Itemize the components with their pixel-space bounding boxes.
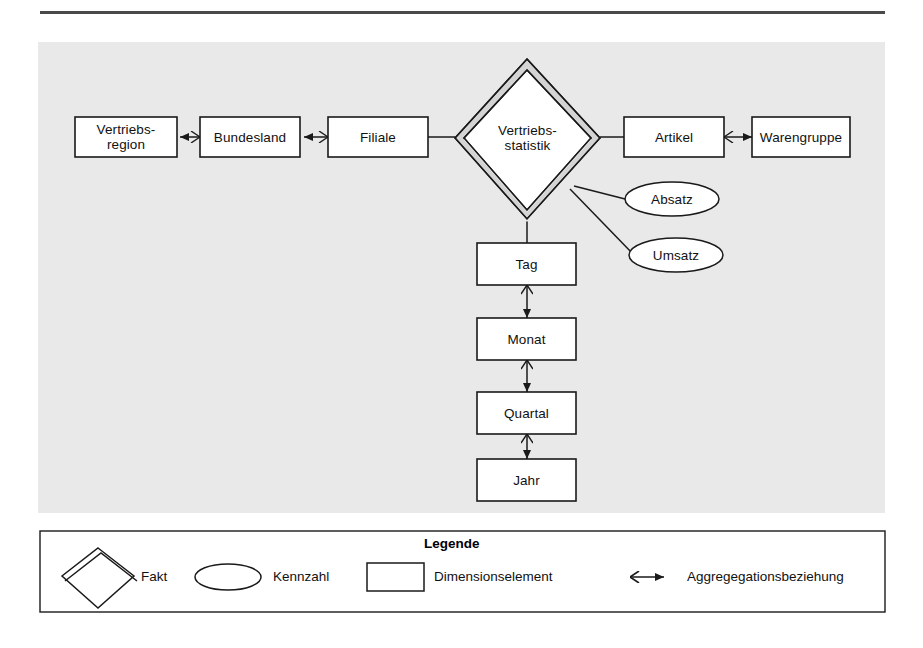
node-jahr[interactable] bbox=[477, 459, 576, 501]
node-quartal[interactable] bbox=[477, 392, 576, 434]
legend-label-aggregationsbeziehung: Aggregegationsbeziehung bbox=[687, 569, 844, 584]
legend-symbol-dimensionselement bbox=[367, 563, 424, 591]
legend-label-kennzahl: Kennzahl bbox=[273, 569, 329, 584]
node-tag[interactable] bbox=[477, 243, 576, 285]
node-filiale[interactable] bbox=[328, 117, 428, 157]
legend-symbol-kennzahl bbox=[195, 564, 261, 590]
node-umsatz[interactable] bbox=[629, 238, 723, 272]
node-bundesland[interactable] bbox=[200, 117, 300, 157]
node-absatz[interactable] bbox=[625, 182, 719, 216]
diagram-panel-background bbox=[38, 42, 885, 513]
legend-label-fakt: Fakt bbox=[141, 569, 167, 584]
legend-title: Legende bbox=[424, 536, 480, 551]
node-artikel[interactable] bbox=[624, 117, 724, 157]
node-vertriebsregion[interactable] bbox=[75, 117, 177, 157]
node-monat[interactable] bbox=[477, 318, 576, 360]
page-root: Vertriebs- region Bundesland Filiale Art… bbox=[0, 0, 923, 648]
node-warengruppe[interactable] bbox=[752, 117, 850, 157]
legend-label-dimensionselement: Dimensionselement bbox=[434, 569, 553, 584]
